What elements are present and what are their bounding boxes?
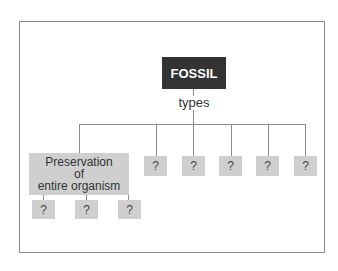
diagram-frame xyxy=(19,21,325,253)
node-unknown-4: ? xyxy=(256,156,279,176)
subnode-unknown-1: ? xyxy=(75,200,98,219)
connector-child-5 xyxy=(305,124,306,156)
root-node-fossil: FOSSIL xyxy=(162,57,226,89)
subnode-unknown-0: ? xyxy=(32,200,55,219)
edge-label-types: types xyxy=(172,96,216,110)
node-unknown-3: ? xyxy=(219,156,242,176)
connector-child-1 xyxy=(156,124,157,156)
node-unknown-5: ? xyxy=(294,156,317,176)
node-unknown-1: ? xyxy=(144,156,167,176)
node-unknown-2: ? xyxy=(182,156,205,176)
node-preservation-entire-organism: Preservation of entire organism xyxy=(29,153,129,195)
root-label: FOSSIL xyxy=(171,66,218,81)
subnode-unknown-2: ? xyxy=(118,200,141,219)
connector-child-0 xyxy=(79,124,80,153)
connector-child-2 xyxy=(193,124,194,156)
connector-child-3 xyxy=(231,124,232,156)
connector-child-4 xyxy=(268,124,269,156)
node-label-line: entire organism xyxy=(29,180,129,192)
